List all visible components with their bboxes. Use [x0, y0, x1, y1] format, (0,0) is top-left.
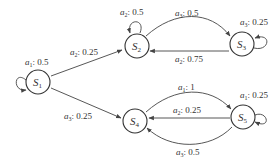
- label-s1-s4: a3: 0.25: [64, 111, 93, 122]
- state-s4: S4: [123, 109, 147, 133]
- label-s1-s2: a2: 0.25: [70, 47, 99, 58]
- label-s2-s2: a2: 0.5: [120, 7, 144, 18]
- label-s2-s3: a3: 0.5: [175, 8, 199, 19]
- state-diagram: S1 S2 S3 S4 S5 a1: 0.5 a2: 0.25 a3: 0.25…: [0, 0, 280, 166]
- state-s1: S1: [26, 70, 50, 94]
- label-s3-s2: a2: 0.75: [175, 54, 204, 65]
- label-s5-s4-a3: a3: 0.5: [176, 147, 200, 158]
- edge-s3-s3: [254, 37, 267, 49]
- edge-s2-s3: [146, 17, 230, 37]
- label-s5-s5: a1: 0.25: [240, 90, 269, 101]
- state-s3: S3: [230, 32, 254, 56]
- edge-s1-s1: [16, 77, 26, 90]
- edge-s5-s4-a3: [147, 127, 232, 144]
- state-s5: S5: [231, 105, 255, 129]
- label-s4-s5: a1: 1: [178, 82, 195, 93]
- edge-s5-s5: [255, 114, 266, 124]
- state-s2: S2: [125, 34, 149, 58]
- label-s3-s3: a3: 0.25: [240, 17, 269, 28]
- edge-s2-s2: [129, 22, 141, 33]
- label-s1-s1: a1: 0.5: [25, 57, 49, 68]
- label-s5-s4-a2: a2: 0.25: [173, 105, 202, 116]
